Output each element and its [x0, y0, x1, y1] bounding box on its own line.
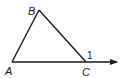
- triangle-diagram: B A C 1: [0, 0, 121, 78]
- vertex-label-b: B: [28, 5, 35, 17]
- side-bc: [39, 10, 86, 62]
- side-ab: [12, 10, 39, 62]
- angle-label-1: 1: [87, 50, 93, 61]
- vertex-label-a: A: [4, 65, 12, 77]
- vertex-label-c: C: [82, 66, 90, 78]
